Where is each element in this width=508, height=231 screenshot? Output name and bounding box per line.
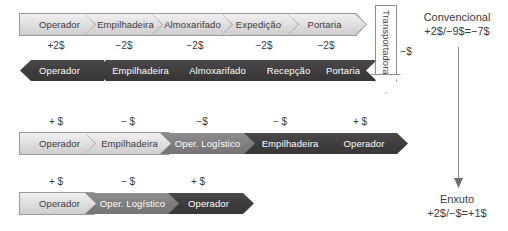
cost-label-r1c2: −2$ (94, 40, 154, 51)
step-label-r3c3: Oper. Logístico (175, 138, 245, 149)
step-label-r4c2: Oper. Logístico (100, 198, 170, 209)
step-label-r4c3: Operador (188, 198, 234, 209)
step-chevron-r4c2: Oper. Logístico (85, 193, 185, 214)
connector-line (458, 47, 459, 181)
step-chevron-r1c5: Portaria (288, 14, 366, 35)
flow-connector-arrow (454, 47, 463, 188)
cost-label-r4c3: + $ (168, 176, 228, 187)
transportadora-arrow: Transportadora (375, 5, 397, 93)
step-label-r2c1: Operador (39, 65, 85, 76)
summary-conventional-equation: +2$/−9$=−7$ (408, 24, 506, 38)
step-label-r2c2: Empilhadeira (112, 65, 174, 76)
step-label-r4c1: Operador (39, 198, 85, 209)
cost-label-r3c1: + $ (26, 116, 86, 127)
cost-label-r4c2: − $ (98, 176, 158, 187)
step-label-r2c5: Portaria (326, 65, 365, 76)
step-label-r1c2: Empilhadeira (97, 19, 159, 30)
diagram-canvas: +2$ −2$ −2$ −2$ −2$ Operador Empilhadeir… (0, 0, 508, 231)
cost-label-r3c2: − $ (98, 116, 158, 127)
cost-label-r1c3: −2$ (165, 40, 225, 51)
step-label-r2c3: Almoxarifado (189, 65, 251, 76)
cost-label-r3c4: − $ (250, 116, 310, 127)
step-label-r1c3: Almoxarifado (164, 19, 226, 30)
step-label-r1c1: Operador (39, 19, 85, 30)
step-label-r3c4: Empilhadeira (262, 138, 324, 149)
connector-arrowhead-icon (454, 178, 463, 188)
transportadora-label: Transportadora (375, 5, 397, 79)
cost-label-r4c1: + $ (26, 176, 86, 187)
step-label-r3c5: Operador (344, 138, 390, 149)
summary-lean: Enxuto +2$/−$=+1$ (408, 192, 506, 220)
step-label-r1c4: Expedição (236, 19, 286, 30)
summary-conventional-title: Convencional (408, 10, 506, 24)
summary-lean-equation: +2$/−$=+1$ (408, 206, 506, 220)
step-label-r2c4: Recepção (267, 65, 316, 76)
step-chevron-r3c5: Operador (325, 133, 408, 154)
cost-label-r1c4: −2$ (234, 40, 294, 51)
step-label-r3c2: Empilhadeira (101, 138, 163, 149)
summary-conventional: Convencional +2$/−9$=−7$ (408, 10, 506, 38)
summary-lean-title: Enxuto (408, 192, 506, 206)
cost-label-r3c3: −$ (172, 116, 232, 127)
cost-label-transportadora: −$ (396, 46, 416, 57)
step-chevron-r1c4: Expedição (222, 14, 300, 35)
cost-label-r1c5: −2$ (296, 40, 356, 51)
step-chevron-r3c4: Empilhadeira (244, 133, 341, 154)
step-chevron-r2c5: Portaria (314, 60, 377, 81)
step-chevron-r4c3: Operador (168, 193, 254, 214)
cost-label-r1c1: +2$ (26, 40, 86, 51)
step-chevron-r3c3: Oper. Logístico (160, 133, 260, 154)
step-label-r1c5: Portaria (307, 19, 346, 30)
step-label-r3c1: Operador (39, 138, 85, 149)
step-chevron-r2c1: Operador (20, 60, 104, 81)
cost-label-r3c5: + $ (330, 116, 390, 127)
